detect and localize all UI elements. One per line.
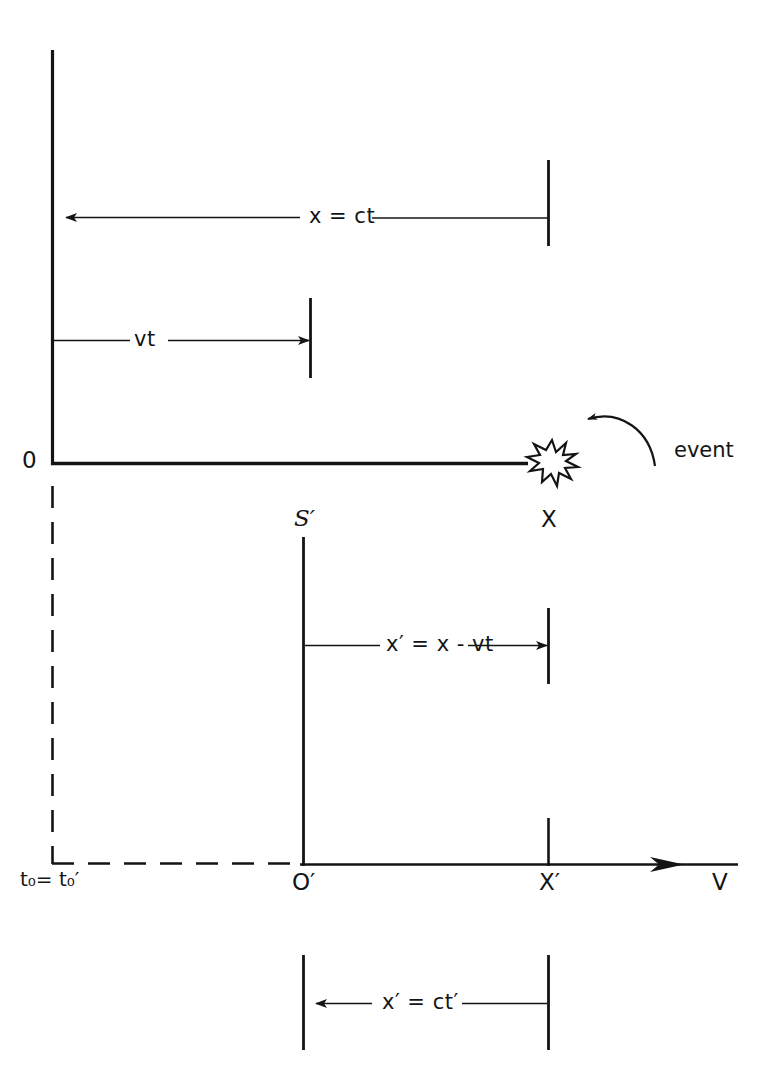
measure-x-equals-ct [66,160,549,246]
event-marker-group [527,417,655,486]
label-event: event [674,440,734,461]
label-origin-s-prime: O′ [292,871,315,894]
label-x-prime-equals-x-minus-vt: x′ = x - vt [386,634,494,655]
curved-arrow-icon [588,417,655,466]
frame-s-axes [51,50,528,465]
frame-s-prime-axes [300,537,738,872]
label-position-x: X [541,508,557,531]
measure-vt [54,298,311,378]
dashed-connectors [52,486,300,864]
label-time-equality: t₀= t₀′ [20,869,79,889]
label-vt: vt [134,329,156,350]
diagram-canvas [0,0,770,1091]
label-position-x-prime: X′ [539,871,560,894]
label-x-equals-ct: x = ct [309,206,375,227]
label-origin-s: 0 [22,449,37,472]
label-time-equality-text: t₀= t₀′ [20,867,79,891]
label-x-prime-equals-ct-prime: x′ = ct′ [382,992,459,1013]
starburst-icon [527,440,578,486]
reference-frame-diagram: x = ct vt 0 event S′ X x′ = x - vt t₀= t… [0,0,770,1091]
label-velocity-axis: V [712,871,728,894]
label-frame-s-prime: S′ [294,507,315,530]
